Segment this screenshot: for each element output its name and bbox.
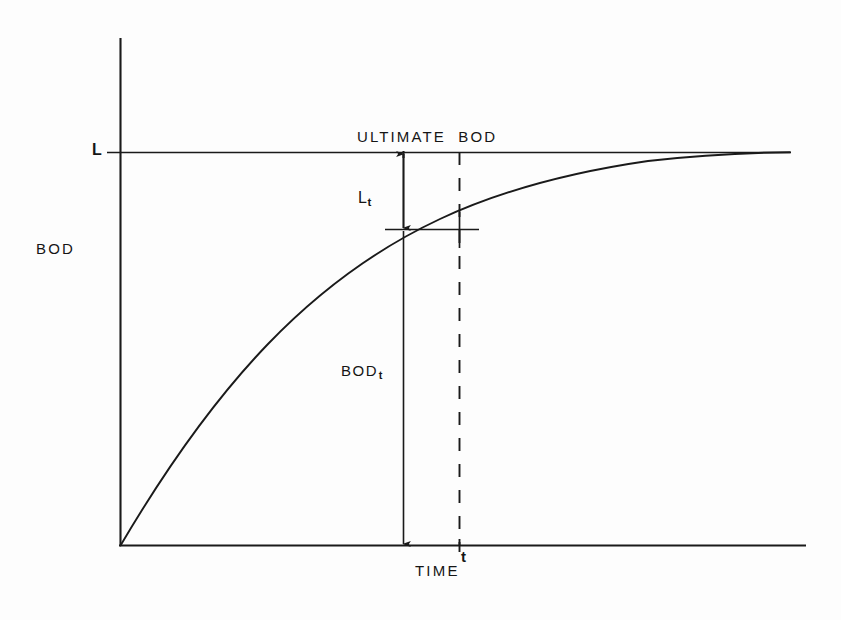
remaining-bod-label: Lt [358, 189, 371, 208]
bod-chart-canvas [0, 0, 841, 620]
ultimate-bod-annotation: ULTIMATE BOD [357, 128, 497, 145]
bod-curve-figure: BOD TIME L ULTIMATE BOD t Lt BODt [0, 0, 841, 620]
y-axis-label: BOD [36, 240, 75, 257]
x-axis-label: TIME [415, 562, 460, 579]
asymptote-tick-label: L [92, 141, 102, 159]
remaining-bod-label-base: L [358, 189, 367, 206]
exerted-bod-label-subscript: t [378, 369, 382, 381]
exerted-bod-label: BODt [341, 362, 382, 381]
time-t-tick-label: t [461, 548, 466, 565]
remaining-bod-label-subscript: t [367, 196, 371, 208]
exerted-bod-label-base: BOD [341, 362, 378, 379]
bod-exertion-curve [121, 152, 791, 545]
